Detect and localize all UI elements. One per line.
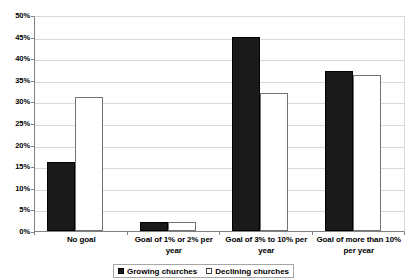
y-axis: 50% 45% 40% 35% 30% 25% 20% 15% 10% 5% 0… — [0, 0, 30, 280]
bar-growing-churches[interactable] — [325, 71, 353, 231]
bar-growing-churches[interactable] — [140, 222, 168, 231]
x-category-label-no-goal: No goal — [35, 235, 128, 246]
hollow-square-icon — [206, 268, 212, 274]
y-tick-label: 5% — [0, 206, 30, 214]
bar-declining-churches[interactable] — [260, 93, 288, 231]
bar-declining-churches[interactable] — [75, 97, 103, 231]
y-tick-label: 45% — [0, 34, 30, 42]
bar-declining-churches[interactable] — [353, 75, 381, 231]
x-category-label-goal-1-2-percent: Goal of 1% or 2% per year — [128, 235, 221, 256]
bar-growing-churches[interactable] — [47, 162, 75, 231]
x-axis: No goal Goal of 1% or 2% per year Goal o… — [35, 235, 405, 263]
legend-item-declining-churches[interactable]: Declining churches — [206, 267, 289, 276]
bar-group — [313, 17, 406, 231]
y-tick-label: 10% — [0, 185, 30, 193]
bar-growing-churches[interactable] — [232, 37, 260, 231]
y-tick-label: 50% — [0, 12, 30, 20]
x-category-label-goal-3-10-percent: Goal of 3% to 10% per year — [220, 235, 313, 256]
bar-chart: 50% 45% 40% 35% 30% 25% 20% 15% 10% 5% 0… — [0, 0, 415, 280]
legend-label: Growing churches — [127, 267, 197, 276]
chart-legend: Growing churches Declining churches — [113, 264, 294, 278]
y-tick-label: 35% — [0, 77, 30, 85]
bar-declining-churches[interactable] — [168, 222, 196, 231]
y-tick-label: 20% — [0, 142, 30, 150]
x-category-label-goal-more-than-10-percent: Goal of more than 10% per year — [313, 235, 406, 256]
legend-item-growing-churches[interactable]: Growing churches — [118, 267, 197, 276]
bar-group — [220, 17, 313, 231]
bar-group — [35, 17, 128, 231]
y-tick-label: 40% — [0, 55, 30, 63]
y-tick-label: 0% — [0, 228, 30, 236]
y-tick-label: 15% — [0, 163, 30, 171]
y-tick-label: 30% — [0, 98, 30, 106]
legend-label: Declining churches — [215, 267, 289, 276]
bar-group — [128, 17, 221, 231]
filled-square-icon — [118, 268, 124, 274]
y-tick-label: 25% — [0, 120, 30, 128]
plot-area — [34, 16, 405, 232]
